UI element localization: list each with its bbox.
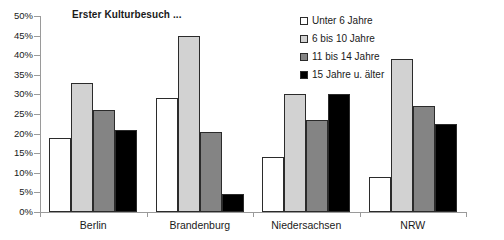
y-axis-tick [34, 192, 40, 193]
bar [413, 106, 435, 212]
y-axis-tick [34, 134, 40, 135]
y-axis-tick-label: 5% [1, 187, 33, 197]
x-axis-separator-tick [360, 212, 361, 217]
y-axis-labels: 50%45%40%35%30%25%20%15%10%5%0% [0, 0, 33, 240]
y-axis-tick-label: 30% [1, 89, 33, 99]
y-axis-tick-label: 20% [1, 129, 33, 139]
bar [328, 94, 350, 212]
legend-item-label: Unter 6 Jahre [312, 16, 373, 26]
bar [391, 59, 413, 212]
bar [115, 130, 137, 212]
y-axis-tick [34, 94, 40, 95]
legend-swatch-icon [300, 71, 308, 79]
y-axis-tick-label: 40% [1, 50, 33, 60]
x-axis-category-label: NRW [360, 219, 467, 231]
y-axis-tick-label: 35% [1, 70, 33, 80]
legend-item-label: 11 bis 14 Jahre [312, 52, 380, 62]
y-axis-tick [34, 55, 40, 56]
legend-swatch-icon [300, 53, 308, 61]
bar [435, 124, 457, 212]
y-axis-tick [34, 75, 40, 76]
bar [306, 120, 328, 212]
bar [49, 138, 71, 212]
bar-chart: Erster Kulturbesuch ... 50%45%40%35%30%2… [0, 0, 504, 240]
legend-swatch-icon [300, 35, 308, 43]
y-axis-tick [34, 114, 40, 115]
y-axis-tick-label: 45% [1, 31, 33, 41]
bar [200, 132, 222, 212]
bar [93, 110, 115, 212]
bar [262, 157, 284, 212]
x-axis-separator-tick [253, 212, 254, 217]
y-axis-tick-label: 15% [1, 148, 33, 158]
bar [71, 83, 93, 212]
x-axis-separator-tick [466, 212, 467, 217]
legend-item: 6 bis 10 Jahre [300, 31, 500, 47]
legend-item-label: 6 bis 10 Jahre [312, 34, 375, 44]
y-axis-tick-label: 50% [1, 11, 33, 21]
x-axis-separator-tick [147, 212, 148, 217]
legend-item: Unter 6 Jahre [300, 13, 500, 29]
y-axis-tick [34, 153, 40, 154]
legend-item-label: 15 Jahre u. älter [312, 70, 384, 80]
legend-swatch-icon [300, 17, 308, 25]
bar [222, 194, 244, 212]
y-axis-tick [34, 16, 40, 17]
bar [369, 177, 391, 212]
x-axis-separator-tick [40, 212, 41, 217]
y-axis-tick [34, 173, 40, 174]
x-axis-category-label: Brandenburg [147, 219, 254, 231]
y-axis-tick-label: 25% [1, 109, 33, 119]
bar [156, 98, 178, 212]
bar [178, 36, 200, 212]
x-axis-category-label: Berlin [40, 219, 147, 231]
x-axis-category-label: Niedersachsen [253, 219, 360, 231]
bar [284, 94, 306, 212]
y-axis-tick-label: 10% [1, 168, 33, 178]
y-axis-tick-label: 0% [1, 207, 33, 217]
y-axis-tick [34, 36, 40, 37]
